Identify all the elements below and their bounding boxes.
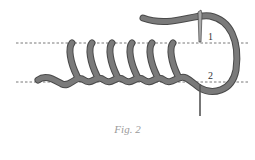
point-label-2: 2 — [208, 70, 213, 81]
needle-icon — [198, 10, 202, 116]
diagram-canvas: 1 2 — [0, 0, 255, 160]
point-label-1: 1 — [208, 31, 213, 42]
figure-caption: Fig. 2 — [0, 123, 255, 135]
